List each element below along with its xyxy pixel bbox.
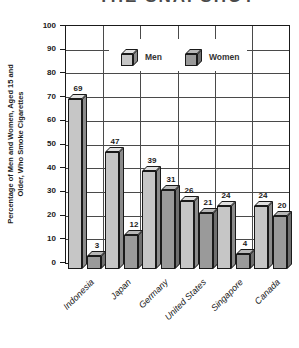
plot-area: Men Women 6934712393126212442420 xyxy=(65,25,290,264)
y-tick-label-90: 90 xyxy=(34,44,56,53)
bar-value-men-indonesia: 69 xyxy=(67,84,89,93)
y-axis-title-line2: Older, Who Smoke Cigarettes xyxy=(16,91,25,196)
bar-women-united-states-front-face xyxy=(199,213,213,269)
bar-value-men-canada: 24 xyxy=(252,191,274,200)
bar-women-germany-front-face xyxy=(161,190,175,269)
bar-men-united-states-front-face xyxy=(180,201,194,269)
y-tick-label-30: 30 xyxy=(34,186,56,195)
bar-women-indonesia-front-face xyxy=(87,256,101,269)
bar-value-men-singapore: 24 xyxy=(215,191,237,200)
bar-value-women-japan: 12 xyxy=(123,220,145,229)
bar-women-japan-front-face xyxy=(124,235,138,269)
y-axis-title: Percentage of Men and Women, Aged 15 and… xyxy=(6,31,28,257)
bars-layer: 6934712393126212442420 xyxy=(66,26,289,263)
y-tick-label-80: 80 xyxy=(34,68,56,77)
bar-men-japan-front-face xyxy=(105,152,119,269)
clipped-page-title: THE SNAPSHOT xyxy=(58,0,296,7)
y-tick-label-40: 40 xyxy=(34,163,56,172)
bar-men-indonesia-front-face xyxy=(68,99,82,269)
y-tick-label-70: 70 xyxy=(34,92,56,101)
bar-value-men-germany: 39 xyxy=(141,156,163,165)
y-tick-label-100: 100 xyxy=(34,21,56,30)
smoking-bar-chart-figure: THE SNAPSHOT Percentage of Men and Women… xyxy=(0,0,299,348)
y-tick-label-50: 50 xyxy=(34,139,56,148)
y-tick-label-20: 20 xyxy=(34,210,56,219)
bar-men-singapore-front-face xyxy=(217,206,231,269)
bar-men-canada-front-face xyxy=(254,206,268,269)
bar-women-canada-side-face xyxy=(287,211,292,269)
bar-value-women-singapore: 4 xyxy=(234,239,256,248)
y-tick-label-10: 10 xyxy=(34,234,56,243)
bar-value-women-canada: 20 xyxy=(271,201,293,210)
bar-value-women-germany: 31 xyxy=(160,175,182,184)
bar-value-men-united-states: 26 xyxy=(178,186,200,195)
y-tick-label-0: 0 xyxy=(34,258,56,267)
bar-value-men-japan: 47 xyxy=(104,137,126,146)
y-tick-label-60: 60 xyxy=(34,115,56,124)
bar-women-canada-front-face xyxy=(273,216,287,269)
bar-value-women-indonesia: 3 xyxy=(86,241,108,250)
y-axis-title-line1: Percentage of Men and Women, Aged 15 and xyxy=(6,64,15,224)
bar-women-singapore-front-face xyxy=(236,254,250,269)
